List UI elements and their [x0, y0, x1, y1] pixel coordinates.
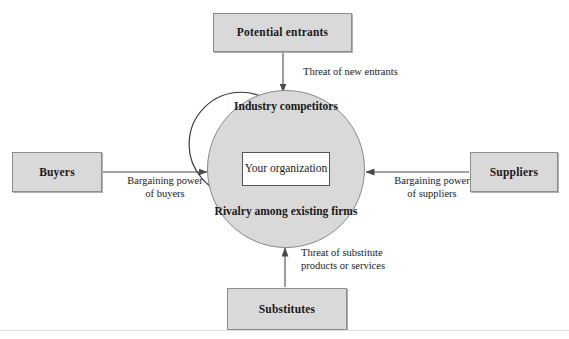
industry-competitors-label: Industry competitors [207, 100, 365, 114]
node-your-organization[interactable]: Your organization [242, 152, 330, 186]
node-potential-entrants-label: Potential entrants [237, 26, 328, 39]
edge-label-bargaining-power-of-buyers: Bargaining power of buyers [113, 175, 217, 201]
node-substitutes[interactable]: Substitutes [227, 288, 347, 330]
edge-label-threat-of-new-entrants: Threat of new entrants [303, 66, 398, 79]
node-potential-entrants[interactable]: Potential entrants [213, 13, 352, 52]
diagram-canvas: Potential entrants Buyers Suppliers Subs… [0, 0, 569, 339]
node-buyers[interactable]: Buyers [12, 152, 102, 192]
rivalry-among-existing-firms-label: Rivalry among existing firms [207, 205, 365, 219]
edge-label-bargaining-power-of-suppliers: Bargaining power of suppliers [376, 175, 488, 201]
edge-label-threat-of-substitutes: Threat of substitute products or service… [301, 247, 385, 273]
node-substitutes-label: Substitutes [259, 303, 316, 316]
node-your-organization-label: Your organization [245, 162, 328, 176]
bottom-rule [0, 330, 569, 331]
node-suppliers-label: Suppliers [490, 166, 538, 179]
node-buyers-label: Buyers [39, 166, 75, 179]
